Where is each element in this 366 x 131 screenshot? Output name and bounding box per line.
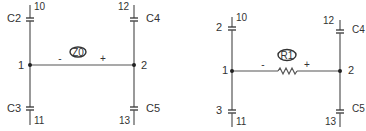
- element-label: Z0: [72, 47, 84, 58]
- terminal-label: 11: [236, 116, 247, 127]
- diagram-left: Z0 - + 1 2 C2 10 12 C4 C3 11 C5 13: [7, 1, 160, 126]
- terminal-label: 13: [325, 116, 337, 127]
- minus-sign: -: [261, 59, 264, 70]
- capacitor-label: C4: [146, 12, 160, 24]
- capacitor-label: 3: [216, 104, 222, 116]
- node-label-2: 2: [141, 59, 147, 71]
- capacitor-label: C3: [7, 102, 21, 114]
- minus-sign: -: [58, 53, 61, 64]
- node-dot: [132, 63, 136, 67]
- circuit-diagrams: Z0 - + 1 2 C2 10 12 C4 C3 11 C5 13: [0, 0, 366, 131]
- terminal-label: 13: [119, 115, 131, 126]
- terminal-label: 12: [323, 15, 335, 26]
- node-label-1: 1: [18, 59, 24, 71]
- node-label-1: 1: [222, 64, 228, 76]
- capacitor-label: C2: [7, 12, 21, 24]
- node-dot: [338, 69, 342, 73]
- terminal-label: 10: [34, 1, 46, 12]
- terminal-label: 12: [118, 1, 130, 12]
- plus-sign: +: [304, 59, 310, 70]
- node-dot: [28, 63, 32, 67]
- terminal-label: 10: [236, 12, 248, 23]
- plus-sign: +: [100, 53, 106, 64]
- element-label: R1: [281, 50, 294, 61]
- capacitor-label: C5: [352, 103, 365, 114]
- terminal-label: 11: [34, 115, 45, 126]
- diagram-right: R1 - + 1 2 2 10 12 C4 3 11 C5 13: [216, 12, 365, 127]
- node-dot: [230, 69, 234, 73]
- capacitor-label: C5: [146, 102, 160, 114]
- resistor-symbol: [278, 68, 297, 74]
- capacitor-label: 2: [216, 21, 222, 33]
- capacitor-label: C4: [352, 24, 365, 35]
- node-label-2: 2: [348, 64, 354, 76]
